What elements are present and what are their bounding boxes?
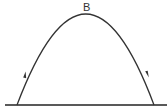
trajectory-diagram (0, 0, 167, 106)
arrow-up-icon (23, 72, 26, 79)
arrow-down-icon (145, 71, 149, 78)
apex-label: B (83, 2, 90, 13)
trajectory-curve (17, 14, 154, 105)
